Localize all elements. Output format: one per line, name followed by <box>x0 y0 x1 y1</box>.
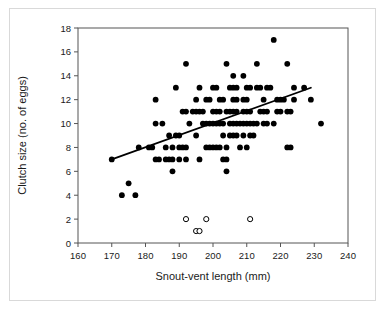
data-point-filled <box>261 97 267 103</box>
data-point-filled <box>193 133 199 139</box>
x-tick-label: 180 <box>138 250 154 261</box>
data-point-filled <box>186 121 192 127</box>
data-point-open <box>248 217 253 222</box>
y-tick-label: 0 <box>66 238 71 249</box>
data-point-open <box>197 228 202 233</box>
data-point-filled <box>173 85 179 91</box>
data-point-filled <box>153 97 159 103</box>
data-point-filled <box>183 145 189 151</box>
x-tick-label: 160 <box>70 250 86 261</box>
data-point-filled <box>244 145 250 151</box>
data-point-filled <box>220 133 226 139</box>
data-point-filled <box>234 133 240 139</box>
data-point-filled <box>126 180 132 186</box>
data-point-filled <box>254 61 260 67</box>
data-point-filled <box>220 121 226 127</box>
data-point-filled <box>153 121 159 127</box>
data-point-filled <box>271 37 277 43</box>
data-point-filled <box>217 109 223 115</box>
data-point-filled <box>288 145 294 151</box>
data-point-filled <box>220 97 226 103</box>
x-tick-label: 170 <box>104 250 120 261</box>
x-tick-label: 230 <box>306 250 322 261</box>
data-point-filled <box>234 85 240 91</box>
scatter-plot: 0246810121416181601701801902002102202302… <box>0 0 385 310</box>
data-point-filled <box>288 109 294 115</box>
data-point-filled <box>254 121 260 127</box>
y-tick-label: 10 <box>60 118 71 129</box>
data-point-filled <box>170 168 176 174</box>
data-point-filled <box>170 145 176 151</box>
data-point-filled <box>267 85 273 91</box>
data-point-filled <box>240 133 246 139</box>
data-point-filled <box>234 97 240 103</box>
data-point-filled <box>308 97 314 103</box>
y-tick-label: 8 <box>66 142 71 153</box>
y-axis-title: Clutch size (no. of eggs) <box>16 76 28 195</box>
x-tick-label: 220 <box>273 250 289 261</box>
data-point-filled <box>224 156 230 162</box>
data-point-filled <box>197 85 203 91</box>
data-point-filled <box>176 156 182 162</box>
data-point-filled <box>200 109 206 115</box>
data-point-filled <box>318 121 324 127</box>
data-point-filled <box>264 109 270 115</box>
series-filled <box>109 37 324 198</box>
data-point-filled <box>224 61 230 67</box>
data-point-filled <box>183 156 189 162</box>
data-point-filled <box>183 109 189 115</box>
data-point-filled <box>170 156 176 162</box>
data-point-filled <box>193 97 199 103</box>
data-point-filled <box>197 156 203 162</box>
data-point-filled <box>271 121 277 127</box>
data-point-filled <box>224 145 230 151</box>
series-open <box>183 217 252 234</box>
y-tick-label: 18 <box>60 23 71 34</box>
y-tick-label: 16 <box>60 46 71 57</box>
figure-container: 0246810121416181601701801902002102202302… <box>0 0 385 310</box>
data-point-filled <box>159 121 165 127</box>
data-point-filled <box>264 121 270 127</box>
data-point-filled <box>237 145 243 151</box>
y-tick-label: 2 <box>66 214 71 225</box>
data-point-filled <box>284 61 290 67</box>
data-point-filled <box>257 85 263 91</box>
data-point-open <box>204 217 209 222</box>
data-point-filled <box>213 85 219 91</box>
data-point-filled <box>230 73 236 79</box>
data-point-filled <box>183 61 189 67</box>
x-axis-title: Snout-vent length (mm) <box>156 270 271 282</box>
data-point-filled <box>132 192 138 198</box>
data-point-open <box>183 217 188 222</box>
data-point-filled <box>278 109 284 115</box>
data-point-filled <box>156 156 162 162</box>
data-point-filled <box>217 145 223 151</box>
data-point-filled <box>291 97 297 103</box>
data-point-filled <box>163 145 169 151</box>
y-tick-label: 4 <box>66 190 71 201</box>
x-tick-label: 240 <box>340 250 356 261</box>
y-tick-label: 12 <box>60 94 71 105</box>
data-point-filled <box>207 97 213 103</box>
data-point-filled <box>244 97 250 103</box>
y-tick-label: 14 <box>60 70 71 81</box>
x-tick-label: 190 <box>171 250 187 261</box>
data-point-filled <box>247 85 253 91</box>
y-tick-label: 6 <box>66 166 71 177</box>
data-point-filled <box>291 85 297 91</box>
x-tick-label: 200 <box>205 250 221 261</box>
x-tick-label: 210 <box>239 250 255 261</box>
data-point-filled <box>119 192 125 198</box>
plot-frame <box>78 28 348 243</box>
data-point-filled <box>240 73 246 79</box>
data-point-filled <box>251 133 257 139</box>
data-point-filled <box>224 168 230 174</box>
